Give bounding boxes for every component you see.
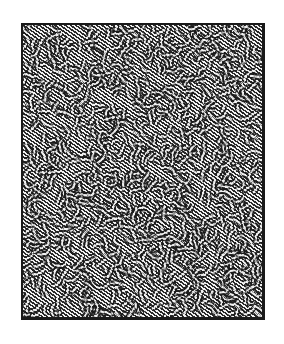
artwork-frame xyxy=(21,23,265,320)
wavy-line-texture xyxy=(23,25,262,317)
